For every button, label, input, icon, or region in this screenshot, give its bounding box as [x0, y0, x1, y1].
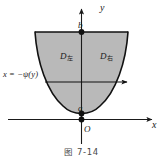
region-left-subscript: 左: [67, 54, 73, 61]
figure-caption: 图 7-14: [0, 145, 163, 157]
figure-container: y x b a O x = −ψ(y) D左 D右 图 7-14: [0, 0, 163, 162]
y-axis-label: y: [100, 3, 104, 13]
region-right-subscript: 右: [107, 54, 113, 61]
x-axis-label: x: [152, 120, 156, 130]
point-a-label: a: [78, 104, 83, 113]
point-b-label: b: [78, 21, 83, 30]
region-label-d-left: D左: [60, 52, 73, 61]
left-boundary-equation-label: x = −ψ(y): [3, 70, 38, 79]
region-label-d-right: D右: [100, 52, 113, 61]
point-origin-dot: [79, 117, 85, 123]
origin-label: O: [84, 125, 91, 134]
